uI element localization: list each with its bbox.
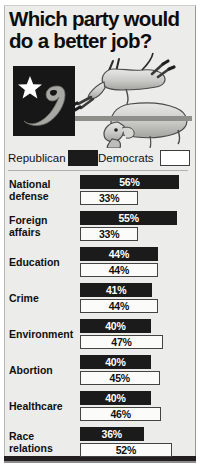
bar-republican: 56% [80,175,179,189]
row-bars: 56% 33% [80,174,186,207]
infographic-panel: Which party would do a better job? Repub… [0,0,200,468]
bar-chart: National defense 56% 33% Foreign affairs… [0,174,192,462]
bar-democrats: 52% [80,443,172,457]
chart-legend: Republican Democrats [8,149,188,169]
chart-row: Environment 40% 47% [0,318,192,351]
row-label-line2: defense [9,191,79,203]
row-label: Foreign affairs [9,210,79,243]
bar-republican: 40% [80,319,151,333]
legend-label-democrats: Democrats [98,152,154,164]
bar-republican: 41% [80,283,152,297]
legend-swatch-democrats [160,150,190,166]
row-label-line2: affairs [9,227,79,239]
elephant-figure [104,103,187,148]
bar-democrats: 45% [80,371,160,385]
row-label: Abortion [9,354,79,387]
row-bars: 40% 46% [80,390,186,423]
bar-democrats: 44% [80,263,158,277]
row-label: Race relations [9,426,79,459]
donkey-figure [72,53,174,110]
row-label-line1: Race [9,431,79,443]
chart-row: Abortion 40% 45% [0,354,192,387]
bar-democrats: 44% [80,299,158,313]
row-label: Healthcare [9,390,79,423]
row-label-line1: Abortion [9,365,79,377]
legend-divider [8,170,188,171]
row-bars: 36% 52% [80,426,186,459]
row-label-line2: relations [9,443,79,455]
chart-row: Education 44% 44% [0,246,192,279]
chart-row: Healthcare 40% 46% [0,390,192,423]
bar-republican: 40% [80,391,151,405]
row-label-line1: Education [9,257,79,269]
row-label-line1: Healthcare [9,401,79,413]
row-label: Environment [9,318,79,351]
bar-democrats: 33% [80,191,138,205]
chart-row: Foreign affairs 55% 33% [0,210,192,243]
legend-swatch-republican [68,150,98,166]
bar-republican: 44% [80,247,158,261]
row-label-line1: National [9,179,79,191]
chart-row: Crime 41% 44% [0,282,192,315]
row-bars: 41% 44% [80,282,186,315]
row-label: Education [9,246,79,279]
bar-republican: 36% [80,427,144,441]
row-label: National defense [9,174,79,207]
row-bars: 40% 45% [80,354,186,387]
bar-democrats: 33% [80,227,138,241]
bar-republican: 55% [80,211,177,225]
bar-democrats: 46% [80,407,161,421]
bar-democrats: 47% [80,335,163,349]
bar-republican: 40% [80,355,151,369]
row-bars: 55% 33% [80,210,186,243]
row-bars: 44% 44% [80,246,186,279]
chart-row: National defense 56% 33% [0,174,192,207]
legend-label-republican: Republican [8,152,66,164]
election-92-logo [13,66,75,136]
row-label-line1: Foreign [9,215,79,227]
page-title: Which party would do a better job? [9,8,187,52]
row-label-line1: Crime [9,293,79,305]
chart-row: Race relations 36% 52% [0,426,192,459]
row-label-line1: Environment [9,329,79,341]
row-label: Crime [9,282,79,315]
row-bars: 40% 47% [80,318,186,351]
